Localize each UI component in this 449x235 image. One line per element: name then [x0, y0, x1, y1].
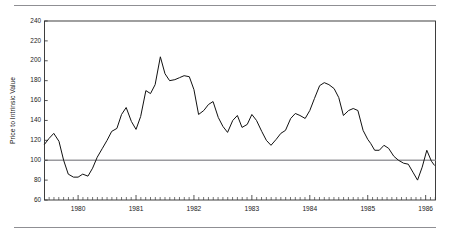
y-tick-label-80: 80: [34, 176, 42, 183]
x-tick-label-1982: 1982: [187, 205, 202, 212]
y-axis-label: Price to Intrinsic Value: [9, 77, 16, 144]
y-tick-label-120: 120: [30, 136, 41, 143]
y-tick-label-60: 60: [34, 196, 42, 203]
x-tick-label-1981: 1981: [129, 205, 144, 212]
chart-page: 6080100120140160180200220240198019811982…: [0, 0, 449, 235]
series-line-price-to-intrinsic-value: [45, 57, 435, 180]
x-tick-label-1984: 1984: [302, 205, 317, 212]
y-tick-label-220: 220: [30, 37, 41, 44]
y-tick-label-180: 180: [30, 76, 41, 83]
plot-frame: [45, 21, 436, 200]
y-tick-label-100: 100: [30, 156, 41, 163]
x-tick-label-1986: 1986: [418, 205, 433, 212]
y-tick-label-140: 140: [30, 116, 41, 123]
x-tick-label-1980: 1980: [71, 205, 86, 212]
y-tick-label-200: 200: [30, 56, 41, 63]
y-tick-label-160: 160: [30, 96, 41, 103]
y-tick-label-240: 240: [30, 17, 41, 24]
x-tick-label-1985: 1985: [360, 205, 375, 212]
line-chart: 6080100120140160180200220240198019811982…: [0, 0, 449, 235]
x-tick-label-1983: 1983: [245, 205, 260, 212]
